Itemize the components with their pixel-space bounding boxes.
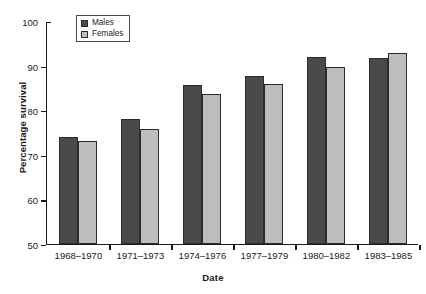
bar-males xyxy=(59,137,78,243)
y-tick-label: 50 xyxy=(8,240,38,251)
bar-females xyxy=(264,84,283,244)
x-axis-title: Date xyxy=(0,272,426,283)
bar-males xyxy=(307,57,326,243)
bars-layer xyxy=(47,22,418,244)
y-tick-label: 90 xyxy=(8,61,38,72)
bar-males xyxy=(183,85,202,244)
x-tick-mark xyxy=(233,245,234,250)
y-tick-label: 100 xyxy=(8,17,38,28)
x-tick-mark xyxy=(295,245,296,250)
bar-group xyxy=(171,22,233,244)
bar-chart: Percentage survival Date 5060708090100 1… xyxy=(0,0,426,294)
y-tick-mark xyxy=(41,67,46,68)
x-tick-mark xyxy=(419,245,420,250)
legend-item-females: Females xyxy=(81,30,123,38)
x-tick-label: 1971–1973 xyxy=(117,250,165,261)
y-tick-mark xyxy=(41,111,46,112)
legend-swatch-males-icon xyxy=(81,20,88,27)
bar-females xyxy=(202,94,221,243)
y-tick-label: 70 xyxy=(8,150,38,161)
x-tick-label: 1983–1985 xyxy=(365,250,413,261)
y-tick-mark xyxy=(41,156,46,157)
bar-females xyxy=(388,53,407,244)
bar-females xyxy=(78,141,97,244)
bar-males xyxy=(245,76,264,243)
legend: Males Females xyxy=(76,15,130,42)
x-tick-mark xyxy=(357,245,358,250)
bar-group xyxy=(295,22,357,244)
x-tick-mark xyxy=(171,245,172,250)
legend-label-males: Males xyxy=(92,19,114,27)
legend-label-females: Females xyxy=(92,30,123,38)
bar-males xyxy=(121,119,140,244)
y-tick-mark xyxy=(41,200,46,201)
x-tick-label: 1974–1976 xyxy=(179,250,227,261)
x-tick-label: 1980–1982 xyxy=(303,250,351,261)
bar-group xyxy=(47,22,109,244)
bar-group xyxy=(233,22,295,244)
x-tick-mark xyxy=(109,245,110,250)
bar-group xyxy=(357,22,419,244)
plot-area: 5060708090100 xyxy=(46,22,418,245)
bar-males xyxy=(369,58,388,244)
y-tick-label: 80 xyxy=(8,106,38,117)
y-tick-label: 60 xyxy=(8,195,38,206)
x-axis-line xyxy=(46,244,418,245)
y-tick-mark xyxy=(41,245,46,246)
bar-group xyxy=(109,22,171,244)
legend-swatch-females-icon xyxy=(81,31,88,38)
legend-item-males: Males xyxy=(81,19,123,27)
x-tick-label: 1968–1970 xyxy=(55,250,103,261)
bar-females xyxy=(140,129,159,243)
bar-females xyxy=(326,67,345,244)
x-tick-label: 1977–1979 xyxy=(241,250,289,261)
